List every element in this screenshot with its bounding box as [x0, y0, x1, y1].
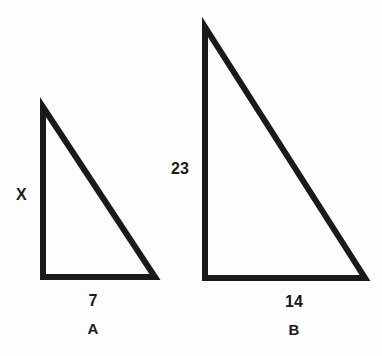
triangle-a-shape	[43, 107, 155, 277]
triangle-b-name-label: B	[269, 322, 319, 337]
diagram-canvas: X 7 A 23 14 B	[0, 0, 382, 356]
triangle-a-base-label: 7	[68, 293, 118, 309]
triangle-b-shape	[205, 27, 365, 278]
triangles-svg	[0, 0, 382, 356]
triangle-b-vertical-side-label: 23	[171, 161, 189, 177]
triangle-b-base-label: 14	[269, 294, 319, 310]
triangle-a-vertical-side-label: X	[16, 187, 27, 203]
triangle-a-name-label: A	[68, 321, 118, 336]
